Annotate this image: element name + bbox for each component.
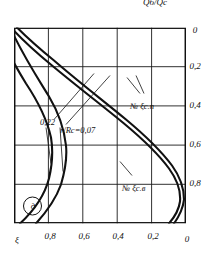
x-axis-label: Qб/Qс — [143, 0, 167, 7]
xtick-0: 0 — [193, 25, 198, 35]
ytick-0: 0 — [185, 234, 190, 244]
plot-area: д r/Rс=0,07 0,22 № ξс.в № ξс.п — [14, 27, 186, 223]
panel-letter-marker: д — [23, 196, 42, 215]
ytick-06: 0,6 — [78, 230, 89, 240]
figure-panel: д r/Rс=0,07 0,22 № ξс.в № ξс.п 0 0,2 0,4… — [0, 0, 224, 257]
series-label-xi-cp: № ξс.п — [130, 101, 154, 110]
curve-xi-cp-007 — [14, 27, 180, 223]
panel-letter-text: д — [30, 201, 35, 211]
xtick-06: 0,6 — [189, 138, 200, 148]
xtick-08: 0,8 — [189, 177, 200, 187]
rotated-plot-stage: д r/Rс=0,07 0,22 № ξс.в № ξс.п 0 0,2 0,4… — [0, 0, 224, 257]
series-label-xi-cv: № ξс.в — [122, 183, 145, 192]
annotation-param-007: r/Rс=0,07 — [60, 125, 95, 134]
ytick-02: 0,2 — [147, 230, 158, 240]
annotation-param-022: 0,22 — [40, 117, 55, 126]
xtick-04: 0,4 — [189, 99, 200, 109]
ytick-08: 0,8 — [44, 230, 55, 240]
ytick-04: 0,4 — [112, 230, 123, 240]
xtick-02: 0,2 — [189, 60, 200, 70]
y-axis-label: ξ — [15, 234, 19, 244]
